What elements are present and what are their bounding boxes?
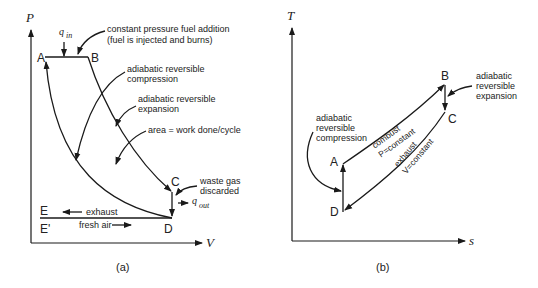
ts-compression-text-1: adiabatic [316,113,353,123]
point-a-label: A [37,51,45,65]
expansion-text-1: adiabatic reversible [138,94,216,104]
expansion-pointer [116,106,136,126]
caption-a: (a) [116,261,129,273]
ts-expansion-text-3: expansion [476,91,517,101]
ts-expansion-text-2: reversible [476,81,515,91]
q-in-label: qin [59,26,72,40]
waste-gas-text-1: waste gas [199,176,241,186]
compression-text-1: adiabatic reversible [127,64,205,74]
point-d-label-b: D [330,205,339,219]
ts-expansion-pointer [448,86,472,96]
point-e-prime-label: E' [40,222,50,236]
point-b-label: B [91,51,99,65]
fresh-air-label: fresh air [79,220,112,230]
ts-compression-text-3: compression [316,133,367,143]
ts-diagram: T s A B C D adiabatic reversible expansi… [287,8,517,273]
v-axis-label: V [206,235,216,250]
exhaust-label: exhaust [86,207,118,217]
compression-pointer [76,72,125,160]
p-axis-label: P [25,10,34,25]
point-a-label-b: A [330,155,338,169]
caption-b: (b) [376,261,389,273]
compression-text-2: compression [127,74,178,84]
t-axis-label: T [287,8,295,23]
s-axis-label: s [469,233,474,248]
diesel-cycle-diagrams: P V qin qout A B C D E E' exhaust fresh … [0,0,538,288]
waste-gas-text-2: discarded [200,186,239,196]
fuel-addition-text-1: constant pressure fuel addition [107,24,230,34]
area-text: area = work done/cycle [148,125,241,135]
ts-expansion-text-1: adiabatic [476,71,513,81]
expansion-text-2: expansion [138,104,179,114]
point-d-label: D [164,222,173,236]
point-c-label-b: C [448,112,457,126]
fuel-addition-text-2: (fuel is injected and burns) [107,35,213,45]
point-b-label-b: B [441,69,449,83]
pv-diagram: P V qin qout A B C D E E' exhaust fresh … [25,10,241,273]
q-out-label: qout [192,195,210,210]
ts-compression-text-2: reversible [316,123,355,133]
point-c-label: C [171,175,180,189]
point-e-label: E [40,204,48,218]
